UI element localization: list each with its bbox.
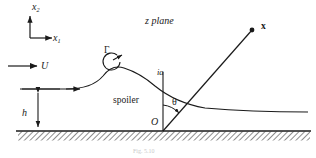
field-point-marker [250, 28, 255, 33]
spoiler-ray [163, 30, 252, 131]
field-point-label: x [261, 22, 266, 32]
ground-hatching [18, 132, 310, 141]
axis-label-x2: x2 [32, 2, 40, 13]
spoiler-tip-label: ia [157, 68, 164, 77]
ground-plane [16, 131, 311, 141]
figure-caption: Fig. 5.10 [133, 148, 155, 154]
circulation-arrow [113, 55, 122, 60]
height-label: h [22, 108, 27, 118]
origin-label: O [151, 117, 158, 127]
circulation-label: Γ [104, 46, 110, 56]
angle-label: θ [172, 97, 177, 107]
coordinate-axes [30, 16, 52, 38]
circulation-arc [103, 53, 120, 70]
freestream-label: U [41, 61, 48, 71]
axis-label-x1: x1 [53, 33, 61, 44]
spoiler-label: spoiler [113, 96, 139, 106]
plane-label: z plane [145, 16, 174, 26]
